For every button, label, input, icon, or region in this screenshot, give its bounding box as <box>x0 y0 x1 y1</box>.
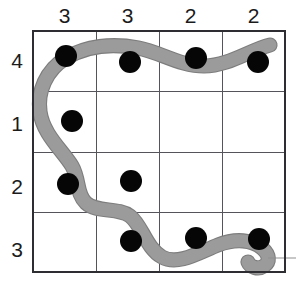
puzzle-canvas: 3 3 2 2 4 1 2 3 <box>0 0 302 284</box>
grid-dot <box>120 230 142 252</box>
column-headers: 3 3 2 2 <box>59 4 260 27</box>
puzzle-container: 3 3 2 2 4 1 2 3 <box>0 0 302 284</box>
column-header-3: 2 <box>185 4 197 27</box>
grid-dot <box>185 227 207 249</box>
column-header-4: 2 <box>248 4 260 27</box>
grid-dot <box>57 173 79 195</box>
row-headers: 4 1 2 3 <box>11 49 23 261</box>
row-header-2: 1 <box>11 112 23 135</box>
grid-dot <box>55 45 77 67</box>
grid-dot <box>119 51 141 73</box>
row-header-4: 3 <box>11 238 23 261</box>
grid-dot <box>247 51 269 73</box>
row-header-3: 2 <box>11 175 23 198</box>
grid-dot <box>61 110 83 132</box>
column-header-1: 3 <box>59 4 71 27</box>
dots-layer <box>55 45 270 252</box>
grid-dot <box>248 228 270 250</box>
grid-dot <box>120 170 142 192</box>
grid-dot <box>185 47 207 69</box>
row-header-1: 4 <box>11 49 23 72</box>
column-header-2: 3 <box>122 4 134 27</box>
